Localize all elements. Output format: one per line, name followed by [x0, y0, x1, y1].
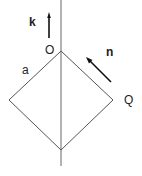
label-a: a [22, 64, 29, 76]
diagram-canvas [0, 0, 142, 176]
label-q: Q [124, 94, 133, 106]
k-vector-arrow-icon [47, 12, 51, 38]
label-n: n [106, 46, 113, 58]
label-k: k [29, 16, 36, 28]
label-o: O [45, 44, 54, 56]
